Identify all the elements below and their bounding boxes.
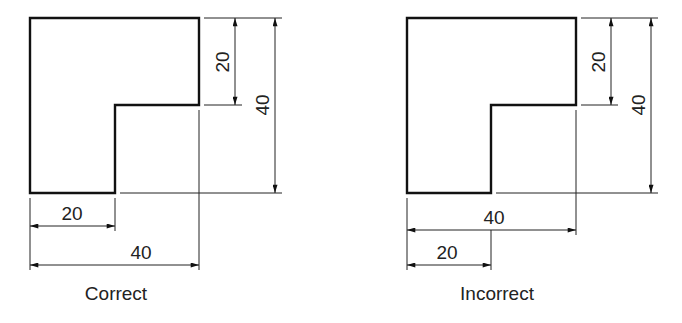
figure-correct: 20 40 20 40 Correct — [30, 18, 282, 304]
dimension-label-horizontal-40: 40 — [130, 242, 151, 263]
dimensioning-diagram: 20 40 20 40 Correct 20 40 40 20 I — [0, 0, 682, 323]
dimension-label-vertical-40: 40 — [252, 94, 273, 115]
dimension-label-horizontal-20: 20 — [436, 242, 457, 263]
l-shape-outline — [30, 18, 199, 193]
figure-incorrect: 20 40 40 20 Incorrect — [407, 18, 658, 304]
dimension-label-vertical-40: 40 — [628, 94, 649, 115]
caption-correct: Correct — [85, 283, 148, 304]
dimension-label-horizontal-20: 20 — [61, 203, 82, 224]
dimension-label-vertical-20: 20 — [588, 51, 609, 72]
dimension-label-vertical-20: 20 — [212, 51, 233, 72]
dimension-label-horizontal-40: 40 — [483, 207, 504, 228]
caption-incorrect: Incorrect — [460, 283, 535, 304]
l-shape-outline — [407, 18, 576, 193]
